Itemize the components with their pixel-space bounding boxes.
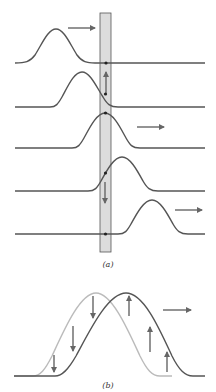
wave-pulse-diagram (0, 0, 216, 392)
element-dot (104, 111, 107, 114)
string-element-band (100, 13, 111, 252)
element-dot (104, 171, 107, 174)
later-pulse (14, 293, 205, 376)
element-dot (104, 92, 107, 95)
element-dot (104, 232, 107, 235)
label-part-b: (b) (102, 381, 113, 390)
part-b (14, 293, 205, 376)
element-dot (104, 61, 107, 64)
label-part-a: (a) (102, 260, 113, 269)
